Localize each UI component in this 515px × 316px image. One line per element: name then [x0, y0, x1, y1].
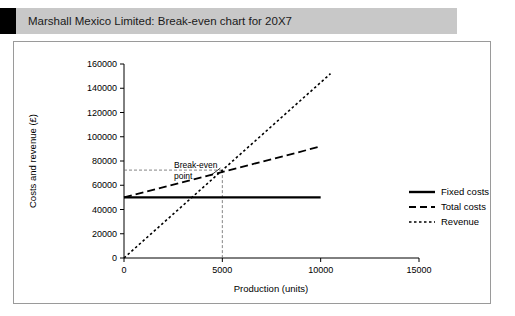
y-tick-label: 60000: [92, 180, 117, 190]
series-line-total-costs: [124, 146, 321, 197]
y-tick-group: 0200004000060000800001000001200001400001…: [87, 59, 124, 263]
legend-item-label: Fixed costs: [441, 186, 489, 197]
x-tick-group: 050001000015000: [121, 258, 431, 275]
y-tick-label: 140000: [87, 83, 117, 93]
series-line-revenue: [124, 74, 331, 258]
chart-legend: Fixed costsTotal costsRevenue: [409, 186, 489, 227]
y-tick-label: 80000: [92, 156, 117, 166]
chart-frame: 0200004000060000800001000001200001400001…: [13, 41, 491, 304]
y-tick-label: 100000: [87, 132, 117, 142]
legend-item-label: Total costs: [441, 201, 486, 212]
y-axis-title: Costs and revenue (£): [27, 114, 38, 208]
x-tick-label: 15000: [406, 265, 431, 275]
y-tick-label: 0: [112, 253, 117, 263]
chart-title-bar: Marshall Mexico Limited: Break-even char…: [0, 8, 457, 34]
y-tick-label: 20000: [92, 229, 117, 239]
break-even-chart: 0200004000060000800001000001200001400001…: [14, 42, 490, 303]
page-title: Marshall Mexico Limited: Break-even char…: [28, 8, 292, 34]
breakeven-annotation-line2: point: [174, 171, 193, 181]
title-accent-block: [0, 8, 16, 34]
x-tick-label: 5000: [212, 265, 232, 275]
x-tick-label: 0: [121, 265, 126, 275]
y-tick-label: 160000: [87, 59, 117, 69]
x-tick-label: 10000: [308, 265, 333, 275]
breakeven-annotation-line1: Break-even: [174, 160, 218, 170]
screenshot-root: Marshall Mexico Limited: Break-even char…: [0, 0, 515, 316]
y-tick-label: 40000: [92, 205, 117, 215]
x-axis-title: Production (units): [234, 283, 308, 294]
y-tick-label: 120000: [87, 108, 117, 118]
legend-item-label: Revenue: [441, 216, 479, 227]
